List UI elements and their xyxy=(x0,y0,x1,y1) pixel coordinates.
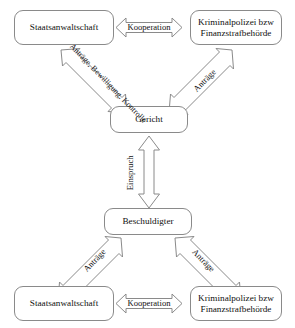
arrow-label-prosecution-court-line2: Bewilligung, xyxy=(89,64,125,101)
arrow-label-accused-police: Anträge xyxy=(184,241,223,281)
node-prosecution-top[interactable]: Staatsanwaltschaft xyxy=(14,10,114,45)
arrow-label-prosecution-court: Anträge, Bewilligung, Kontrolle xyxy=(68,42,116,92)
node-police-bottom-label-line2: Finanzstrafbehörde xyxy=(198,304,274,315)
node-police-top-label-line2: Finanzstrafbehörde xyxy=(198,28,274,39)
node-prosecution-bottom[interactable]: Staatsanwaltschaft xyxy=(14,286,114,321)
arrow-label-einspruch: Einspruch xyxy=(126,143,136,203)
arrow-layer xyxy=(0,0,295,328)
flow-diagram: Staatsanwaltschaft Kriminalpolizei bzw F… xyxy=(0,0,295,328)
node-accused[interactable]: Beschuldigter xyxy=(104,208,192,235)
node-police-bottom-label-line1: Kriminalpolizei bzw xyxy=(198,293,274,304)
arrow-label-kooperation-bottom: Kooperation xyxy=(116,299,182,309)
arrow-label-accused-prosecution: Anträge xyxy=(76,241,115,281)
node-police-bottom[interactable]: Kriminalpolizei bzw Finanzstrafbehörde xyxy=(190,286,282,321)
node-accused-label: Beschuldigter xyxy=(122,216,173,227)
arrow-label-police-court: Anträge xyxy=(185,61,224,100)
node-prosecution-top-label: Staatsanwaltschaft xyxy=(30,22,98,33)
arrow-einspruch xyxy=(139,136,160,208)
arrow-prosecution-court xyxy=(61,49,127,114)
node-prosecution-bottom-label: Staatsanwaltschaft xyxy=(30,298,98,309)
arrow-label-prosecution-court-line1: Anträge, xyxy=(68,42,94,69)
node-court[interactable]: Gericht xyxy=(110,106,188,133)
node-police-top-label-line1: Kriminalpolizei bzw xyxy=(198,17,274,28)
arrow-label-kooperation-top: Kooperation xyxy=(116,23,182,33)
node-police-top[interactable]: Kriminalpolizei bzw Finanzstrafbehörde xyxy=(190,10,282,45)
